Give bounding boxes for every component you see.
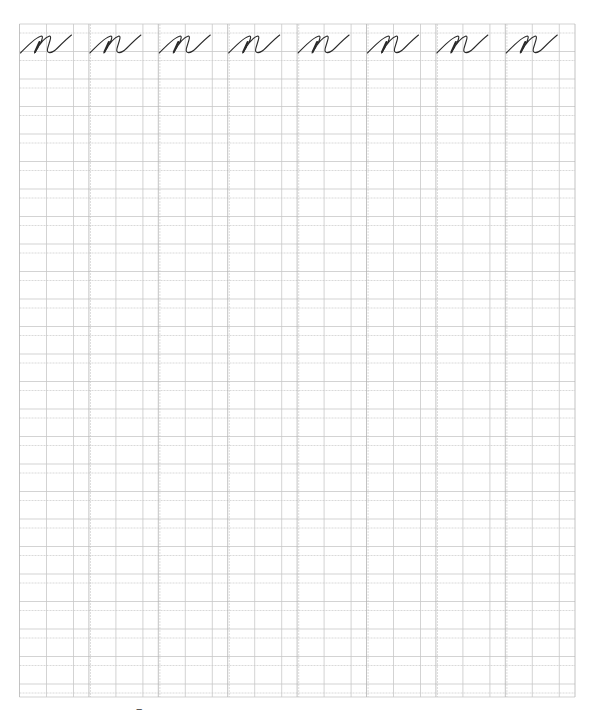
sample-letter-n <box>368 35 419 53</box>
sample-letter-n <box>437 35 488 53</box>
sample-letter-n <box>229 35 280 53</box>
practice-grid <box>0 0 593 713</box>
sample-letter-n <box>159 35 210 53</box>
sample-letter-n <box>298 35 349 53</box>
sample-letter-n <box>21 35 72 53</box>
vertical-ruling-lines <box>20 24 576 697</box>
sample-letter-n <box>506 35 557 53</box>
page-mark: ‒ <box>136 704 142 713</box>
handwriting-worksheet: ‒ <box>0 0 593 713</box>
sample-letters-row <box>21 35 558 53</box>
sample-letter-n <box>90 35 141 53</box>
